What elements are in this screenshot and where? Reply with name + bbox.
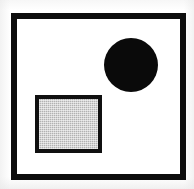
outer-frame-rectangle <box>11 13 186 180</box>
gray-square-shape <box>35 95 102 153</box>
figure-canvas <box>0 0 194 189</box>
black-circle-shape <box>104 38 158 92</box>
gray-square-fill <box>39 99 98 149</box>
